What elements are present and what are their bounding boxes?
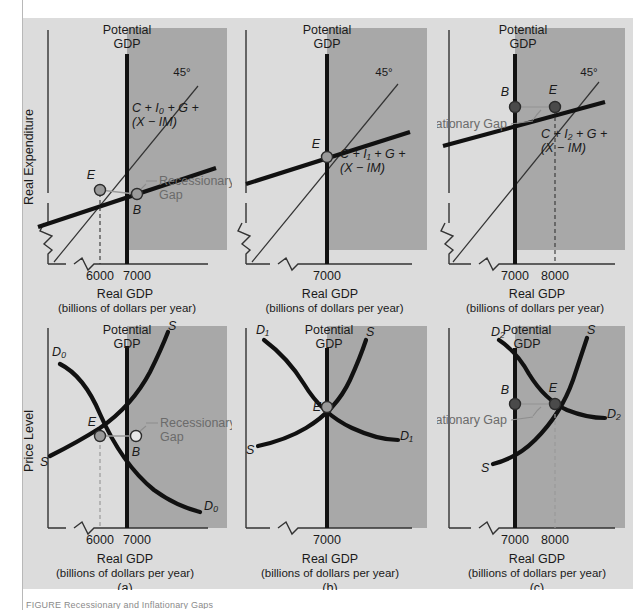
forty-five-degree-label: 45° (173, 66, 190, 78)
point-E-marker (550, 399, 561, 410)
xtick-7000: 7000 (123, 533, 151, 547)
potential-gdp-label-line2: GDP (113, 337, 140, 351)
x-axis-title: Real GDP (97, 552, 153, 566)
forty-five-degree-label: 45° (375, 66, 392, 78)
x-axis-subtitle-c-top: (billions of dollars per year) (466, 302, 604, 314)
panel-c-bottom: D₂ D₂ S S Potential GDP Inflationary Gap… (437, 318, 633, 590)
potential-gdp-label-line2: GDP (513, 337, 540, 351)
expenditure-schedule-label-line1: C + I₂ + G + (541, 127, 607, 141)
recessionary-gap-label-line2: Gap (159, 188, 183, 202)
x-axis-subtitle: (billions of dollars per year) (56, 567, 194, 579)
point-E-marker (322, 402, 333, 413)
potential-gdp-label-line1: Potential (503, 323, 552, 337)
x-axis-subtitle: (billions of dollars per year) (468, 567, 606, 579)
potential-gdp-label-line2: GDP (313, 37, 340, 51)
aggregate-supply-label-high: S (168, 319, 177, 333)
shade-region (327, 28, 427, 250)
aggregate-demand-label-bottom: D₂ (607, 407, 621, 421)
point-E-label: E (313, 400, 322, 414)
aggregate-demand-label-bottom: D₀ (204, 499, 218, 513)
panel-c-top: 45° Potential GDP C + I₂ + G + (X − IM) … (437, 18, 633, 308)
panel-a-bottom: D₀ D₀ S S Potential GDP Recessionary Gap… (22, 318, 232, 590)
expenditure-schedule-label-line1: C + I₁ + G + (340, 147, 405, 161)
aggregate-supply-label-high: S (366, 325, 375, 339)
inflationary-gap-label: Inflationary Gap (437, 413, 507, 427)
shade-region (127, 28, 227, 250)
aggregate-demand-label-bottom: D₁ (400, 429, 413, 443)
point-B-marker (131, 431, 142, 442)
figure-caption-sliver: FIGURE Recessionary and Inflationary Gap… (26, 600, 586, 609)
forty-five-degree-label: 45° (580, 66, 597, 78)
panel-b-top: 45° Potential GDP C + I₁ + G + (X − IM) … (232, 18, 437, 308)
expenditure-schedule-label-line1: C + I₀ + G + (132, 101, 199, 115)
y-axis-title-top: Real Expenditure (22, 109, 36, 205)
inflationary-gap-label: Inflationary Gap (437, 117, 507, 131)
point-B-label: B (501, 383, 509, 397)
potential-gdp-label-line2: GDP (509, 37, 536, 51)
point-E-marker (550, 102, 561, 113)
xtick-8000: 8000 (541, 533, 569, 547)
xtick-7000: 7000 (313, 269, 341, 283)
xtick-7000: 7000 (501, 269, 529, 283)
aggregate-demand-label-top: D₁ (256, 323, 269, 337)
aggregate-demand-label-top: D₀ (52, 345, 66, 359)
xtick-7000: 7000 (313, 533, 341, 547)
x-axis-subtitle-a-top: (billions of dollars per year) (58, 302, 196, 314)
potential-gdp-label-line1: Potential (303, 23, 352, 37)
x-axis-title: Real GDP (302, 552, 358, 566)
y-axis-title-bottom: Price Level (22, 410, 36, 472)
x-axis-subtitle: (billions of dollars per year) (261, 567, 399, 579)
figure-root: 45° Potential GDP C + I₀ + G + (X − IM) … (0, 0, 643, 610)
point-E-label: E (312, 137, 321, 151)
point-E-marker (322, 152, 333, 163)
expenditure-schedule-label-line2: (X − IM) (340, 161, 385, 175)
point-B-marker (132, 189, 143, 200)
xtick-7000: 7000 (501, 533, 529, 547)
point-B-marker (510, 102, 521, 113)
point-E-marker (95, 185, 106, 196)
x-axis-title: Real GDP (509, 552, 565, 566)
panel-letter-c: (c) (530, 581, 545, 590)
xtick-7000: 7000 (123, 269, 151, 283)
potential-gdp-label-line1: Potential (103, 323, 152, 337)
aggregate-supply-label-low: S (481, 461, 490, 475)
shade-region (515, 326, 625, 528)
aggregate-supply-label-low: S (40, 455, 49, 469)
potential-gdp-label-line1: Potential (103, 23, 152, 37)
aggregate-supply-label-low: S (246, 443, 255, 457)
expenditure-schedule-label-line2: (X − IM) (132, 115, 177, 129)
xtick-8000: 8000 (541, 269, 569, 283)
xtick-6000: 6000 (86, 533, 114, 547)
point-B-label: B (132, 445, 140, 459)
panel-a-top: 45° Potential GDP C + I₀ + G + (X − IM) … (22, 18, 232, 308)
recessionary-gap-label-line1: Recessionary (159, 174, 232, 188)
expenditure-schedule-label-line2: (X − IM) (541, 141, 586, 155)
xtick-6000: 6000 (86, 269, 114, 283)
panel-letter-b: (b) (322, 581, 337, 590)
shade-region (327, 326, 427, 528)
aggregate-supply-label-high: S (587, 323, 596, 337)
recessionary-gap-label-line2: Gap (160, 430, 184, 444)
point-B-marker (510, 399, 521, 410)
panel-letter-a: (a) (117, 581, 132, 590)
x-axis-subtitle-b-top: (billions of dollars per year) (265, 302, 403, 314)
potential-gdp-label-line1: Potential (499, 23, 548, 37)
potential-gdp-label-line2: GDP (113, 37, 140, 51)
point-B-label: B (501, 85, 509, 99)
point-E-marker (95, 431, 106, 442)
potential-gdp-label-line1: Potential (305, 323, 354, 337)
point-E-label: E (87, 168, 96, 182)
point-E-label: E (88, 415, 97, 429)
recessionary-gap-label-line1: Recessionary (160, 416, 232, 430)
point-B-label: B (133, 203, 141, 217)
point-E-label: E (549, 83, 558, 97)
potential-gdp-label-line2: GDP (315, 337, 342, 351)
point-E-label: E (549, 381, 558, 395)
panel-b-bottom: D₁ D₁ S S Potential GDP E 7000 Real GDP … (232, 318, 437, 590)
